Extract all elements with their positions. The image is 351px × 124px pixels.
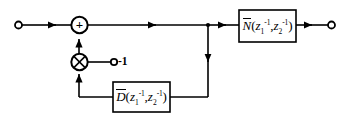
numerator-arg1-sub: 1 bbox=[261, 27, 265, 36]
numerator-block-label: N(z1-1,z2-1) bbox=[239, 18, 296, 36]
numerator-close-paren: ) bbox=[288, 18, 292, 33]
branch-point-dot bbox=[206, 23, 210, 27]
denominator-arg2-sub: 2 bbox=[153, 98, 157, 107]
numerator-letter: N bbox=[243, 18, 252, 33]
output-terminal-circle[interactable] bbox=[328, 22, 335, 29]
denominator-arg1-sub: 1 bbox=[135, 98, 139, 107]
block-diagram-figure: + -1 N(z1-1,z2-1) D(z1-1,z2-1) bbox=[0, 0, 351, 124]
gain-value-label: -1 bbox=[118, 56, 128, 68]
diagram-canvas bbox=[0, 0, 351, 124]
input-terminal-circle[interactable] bbox=[15, 22, 22, 29]
denominator-block-label: D(z1-1,z2-1) bbox=[113, 89, 170, 107]
denominator-close-paren: ) bbox=[162, 89, 166, 104]
denominator-letter: D bbox=[116, 89, 125, 104]
summing-junction-sign: + bbox=[74, 18, 85, 31]
numerator-arg2-sub: 2 bbox=[279, 27, 283, 36]
gain-terminal-circle[interactable] bbox=[111, 59, 117, 65]
